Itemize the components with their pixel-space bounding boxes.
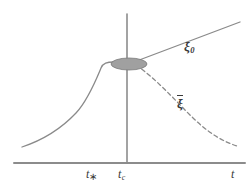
curve-label-xi-zero: ξ0 bbox=[184, 40, 194, 55]
xi-zero-symbol: ξ bbox=[184, 39, 190, 54]
plot-canvas bbox=[0, 0, 249, 196]
critical-point-marker bbox=[111, 58, 147, 70]
correlation-length-figure: ξ0 ξ t∗ tc t bbox=[0, 0, 249, 196]
xi-zero-line bbox=[126, 22, 240, 65]
curve-label-xi-bar: ξ bbox=[177, 95, 183, 110]
x-axis-label: t bbox=[231, 168, 234, 180]
t-star-subscript: ∗ bbox=[89, 171, 97, 182]
xi-bar-dashed-curve bbox=[136, 65, 237, 146]
t-c-subscript: c bbox=[121, 173, 125, 182]
xi-bar-symbol: ξ bbox=[177, 95, 183, 110]
x-tick-label-t-star: t∗ bbox=[86, 168, 97, 181]
xi-zero-subscript: 0 bbox=[190, 45, 195, 55]
x-tick-label-t-c: tc bbox=[118, 168, 125, 182]
rising-divergence-curve bbox=[22, 62, 114, 147]
